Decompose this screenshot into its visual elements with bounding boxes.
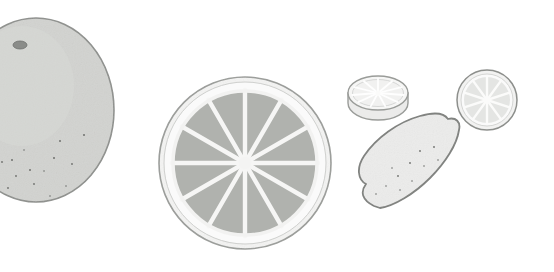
citrus-illustration	[0, 0, 554, 272]
cross-section-core	[239, 157, 252, 170]
center-cross-section	[159, 77, 331, 249]
stem-scar-icon	[13, 41, 27, 49]
illustration-canvas	[0, 0, 554, 272]
slice-core	[375, 90, 380, 95]
right-round-slice	[457, 70, 517, 130]
thick-angled-slice	[348, 76, 408, 120]
right-slice-core	[484, 97, 489, 102]
